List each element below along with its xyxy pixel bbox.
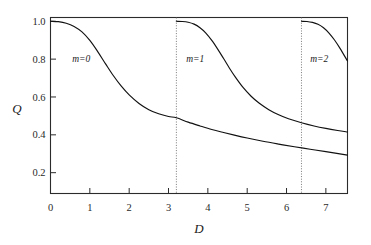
x-ticklabel-0: 0 <box>48 202 53 213</box>
x-axis-title: D <box>193 221 204 236</box>
x-ticklabel-7: 7 <box>323 202 328 213</box>
x-axis-tick-group <box>51 188 326 194</box>
x-axis-ticklabel-group: 01234567 <box>48 202 329 213</box>
branch-label-m2: m=2 <box>310 54 328 64</box>
branch-marker-group <box>176 18 301 194</box>
chart-figure: 0.20.40.60.81.0 01234567 m=0m=1m=2 Q D <box>0 0 371 245</box>
x-ticklabel-5: 5 <box>245 202 250 213</box>
plot-frame <box>51 18 348 194</box>
x-ticklabel-2: 2 <box>127 202 132 213</box>
y-ticklabel-4: 1.0 <box>32 16 45 27</box>
y-ticklabel-0: 0.2 <box>32 167 45 178</box>
y-axis-title: Q <box>12 101 22 116</box>
annotation-group: m=0m=1m=2 <box>72 54 328 64</box>
y-axis-tick-group <box>51 21 57 172</box>
branch-label-m0: m=0 <box>72 54 90 64</box>
y-ticklabel-3: 0.8 <box>32 54 45 65</box>
y-ticklabel-1: 0.4 <box>32 129 46 140</box>
data-curve-group <box>51 21 348 155</box>
x-ticklabel-3: 3 <box>166 202 171 213</box>
x-ticklabel-1: 1 <box>87 202 92 213</box>
curve-m0 <box>51 21 348 155</box>
x-ticklabel-6: 6 <box>284 202 289 213</box>
curve-m1 <box>176 21 347 132</box>
chart-svg: 0.20.40.60.81.0 01234567 m=0m=1m=2 Q D <box>0 0 371 245</box>
branch-label-m1: m=1 <box>186 54 204 64</box>
x-ticklabel-4: 4 <box>205 202 211 213</box>
y-axis-ticklabel-group: 0.20.40.60.81.0 <box>32 16 46 178</box>
y-ticklabel-2: 0.6 <box>32 92 45 103</box>
